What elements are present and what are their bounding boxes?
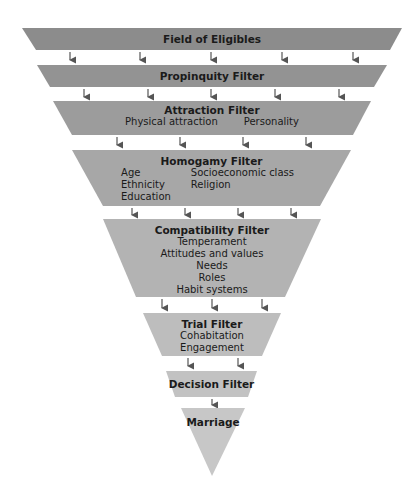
homogamy-col-1: Age Ethnicity Education	[121, 167, 171, 203]
item-ethnicity: Ethnicity	[121, 179, 171, 191]
item-personality: Personality	[244, 116, 299, 128]
homogamy-filter-block: Homogamy Filter Age Ethnicity Education …	[72, 155, 351, 203]
arrows-row-2	[84, 89, 339, 97]
homogamy-items: Age Ethnicity Education Socioeconomic cl…	[72, 167, 351, 203]
arrows-row-6	[188, 358, 238, 366]
item-engagement: Engagement	[143, 342, 281, 354]
label-trial-filter: Trial Filter	[143, 318, 281, 330]
attraction-filter-block: Attraction Filter Physical attraction Pe…	[53, 104, 371, 128]
arrows-row-5	[162, 299, 262, 308]
compatibility-filter-block: Compatibility Filter Temperament Attitud…	[103, 224, 321, 296]
label-decision-filter: Decision Filter	[166, 378, 257, 390]
item-needs: Needs	[103, 260, 321, 272]
label-marriage: Marriage	[181, 416, 245, 428]
item-cohabitation: Cohabitation	[143, 330, 281, 342]
item-attitudes-and-values: Attitudes and values	[103, 248, 321, 260]
arrows-row-3	[117, 137, 306, 145]
label-homogamy-filter: Homogamy Filter	[72, 155, 351, 167]
label-field-of-eligibles: Field of Eligibles	[22, 33, 402, 45]
trial-filter-block: Trial Filter Cohabitation Engagement	[143, 318, 281, 354]
item-roles: Roles	[103, 272, 321, 284]
label-propinquity-filter: Propinquity Filter	[37, 70, 387, 82]
item-habit-systems: Habit systems	[103, 284, 321, 296]
attraction-items: Physical attraction Personality	[53, 116, 371, 128]
item-temperament: Temperament	[103, 236, 321, 248]
item-education: Education	[121, 191, 171, 203]
item-physical-attraction: Physical attraction	[125, 116, 218, 128]
label-compatibility-filter: Compatibility Filter	[103, 224, 321, 236]
item-age: Age	[121, 167, 171, 179]
homogamy-col-2: Socioeconomic class Religion	[191, 167, 294, 203]
item-socioeconomic-class: Socioeconomic class	[191, 167, 294, 179]
arrows-row-1	[70, 52, 353, 60]
item-religion: Religion	[191, 179, 294, 191]
label-attraction-filter: Attraction Filter	[53, 104, 371, 116]
arrows-row-4	[132, 208, 291, 215]
